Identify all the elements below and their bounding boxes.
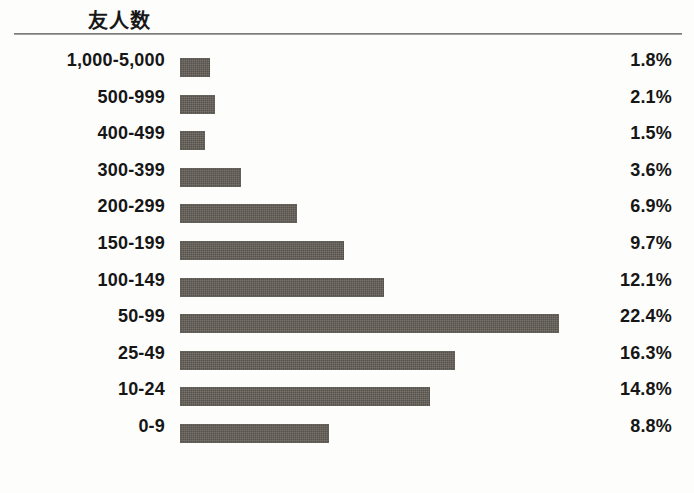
bar-track [180,424,600,443]
bar-fill [180,95,215,114]
title-divider-rule [14,33,682,35]
bar-track [180,168,600,187]
bar-category-label: 50-99 [0,306,165,327]
bar-value-label: 9.7% [560,233,672,254]
bar-fill [180,131,205,150]
bar-category-label: 150-199 [0,233,165,254]
bar-row: 300-3993.6% [0,158,694,195]
bar-fill [180,424,329,443]
bar-row: 200-2996.9% [0,194,694,231]
bar-row: 25-4916.3% [0,341,694,378]
bar-fill [180,168,241,187]
bar-value-label: 1.8% [560,50,672,71]
bar-row: 10-2414.8% [0,377,694,414]
bar-rows-list: 1,000-5,0001.8%500-9992.1%400-4991.5%300… [0,48,694,451]
bar-track [180,204,600,223]
bar-track [180,131,600,150]
bar-row: 1,000-5,0001.8% [0,48,694,85]
bar-value-label: 8.8% [560,416,672,437]
bar-row: 500-9992.1% [0,85,694,122]
bar-value-label: 14.8% [560,379,672,400]
bar-fill [180,58,210,77]
bar-fill [180,387,430,406]
chart-title: 友人数 [88,5,151,34]
bar-row: 100-14912.1% [0,268,694,305]
chart-container: 友人数 1,000-5,0001.8%500-9992.1%400-4991.5… [0,0,694,493]
bar-category-label: 200-299 [0,196,165,217]
bar-category-label: 300-399 [0,160,165,181]
bar-fill [180,241,344,260]
bar-fill [180,351,455,370]
bar-value-label: 2.1% [560,87,672,108]
bar-track [180,387,600,406]
bar-category-label: 1,000-5,000 [0,50,165,71]
bar-value-label: 16.3% [560,343,672,364]
bar-fill [180,314,559,333]
bar-fill [180,204,297,223]
bar-fill [180,278,384,297]
bar-track [180,241,600,260]
bar-track [180,58,600,77]
bar-row: 0-98.8% [0,414,694,451]
bar-track [180,278,600,297]
bar-category-label: 400-499 [0,123,165,144]
bar-value-label: 1.5% [560,123,672,144]
bar-category-label: 25-49 [0,343,165,364]
bar-row: 400-4991.5% [0,121,694,158]
bar-row: 150-1999.7% [0,231,694,268]
bar-value-label: 12.1% [560,270,672,291]
bar-row: 50-9922.4% [0,304,694,341]
bar-value-label: 22.4% [560,306,672,327]
bar-value-label: 3.6% [560,160,672,181]
bar-category-label: 500-999 [0,87,165,108]
bar-category-label: 10-24 [0,379,165,400]
bar-track [180,351,600,370]
bar-track [180,95,600,114]
bar-category-label: 100-149 [0,270,165,291]
bar-category-label: 0-9 [0,416,165,437]
bar-track [180,314,600,333]
bar-value-label: 6.9% [560,196,672,217]
